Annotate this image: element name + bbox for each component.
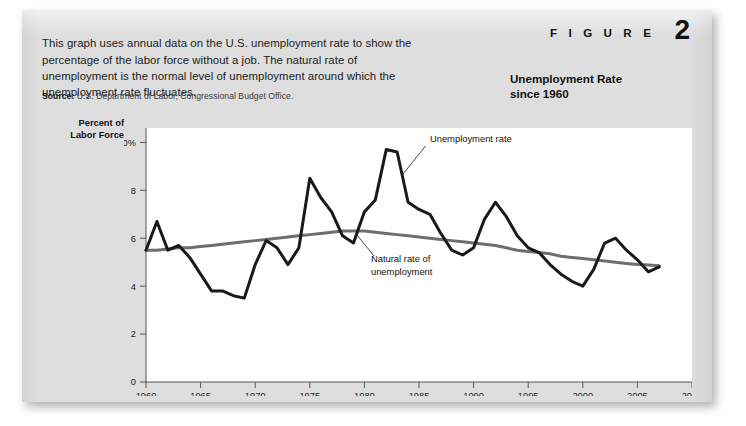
source-label: Source: (42, 91, 74, 101)
x-tick-label: 1970 (245, 391, 266, 396)
chart-plot-area: 0246810% 1960196519701975198019851990199… (124, 106, 692, 396)
unemployment-line-chart: 0246810% 1960196519701975198019851990199… (124, 106, 692, 396)
x-tick-label: 2000 (572, 391, 593, 396)
y-tick-marks (140, 142, 146, 382)
y-tick-label: 6 (131, 234, 136, 244)
figure-number: 2 (674, 16, 690, 44)
x-tick-label: 1960 (136, 391, 157, 396)
x-tick-label: 1985 (409, 391, 430, 396)
figure-source-line: Source: U.S. Department of Labor, Congre… (42, 91, 442, 101)
y-axis-title-line-1: Percent of (79, 118, 124, 128)
y-tick-label: 8 (131, 186, 136, 196)
figure-word-label: F I G U R E (550, 26, 655, 39)
figure-title-line-1: Unemployment Rate (510, 72, 622, 85)
annotation-label: unemployment (371, 266, 433, 277)
y-axis-title: Percent of Labor Force (46, 118, 124, 141)
y-tick-labels: 0246810% (124, 138, 136, 388)
y-axis-title-line-2: Labor Force (70, 130, 124, 140)
x-tick-label: 1975 (299, 391, 320, 396)
figure-card: This graph uses annual data on the U.S. … (22, 10, 712, 402)
y-tick-label: 4 (131, 282, 136, 292)
y-tick-label: 10% (124, 138, 136, 148)
x-tick-label: 2010 (682, 391, 692, 396)
source-text: U.S. Department of Labor, Congressional … (77, 91, 294, 101)
annotation-label: Natural rate of (371, 253, 431, 264)
x-tick-labels: 1960196519701975198019851990199520002005… (136, 391, 692, 396)
y-tick-label: 2 (131, 329, 136, 339)
x-tick-label: 2005 (627, 391, 648, 396)
x-tick-label: 1965 (190, 391, 211, 396)
page-root: This graph uses annual data on the U.S. … (0, 0, 746, 426)
x-tick-label: 1980 (354, 391, 375, 396)
x-tick-label: 1995 (518, 391, 539, 396)
figure-title-line-2: since 1960 (510, 87, 569, 100)
annotation-label: Unemployment rate (430, 133, 512, 144)
figure-title: Unemployment Rate since 1960 (510, 72, 690, 101)
x-tick-label: 1990 (463, 391, 484, 396)
x-tick-marks (146, 382, 692, 388)
y-tick-label: 0 (131, 377, 136, 387)
